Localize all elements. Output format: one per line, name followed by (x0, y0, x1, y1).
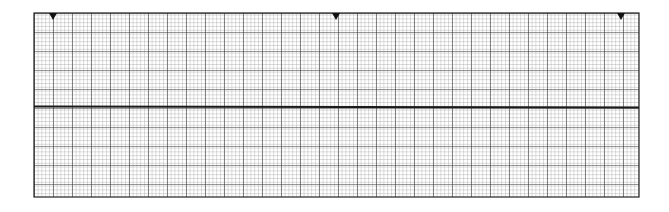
grid-paper (34, 13, 639, 197)
baseline-line (34, 107, 639, 108)
baseline-trace (34, 107, 639, 108)
ecg-grid-strip (0, 0, 669, 212)
